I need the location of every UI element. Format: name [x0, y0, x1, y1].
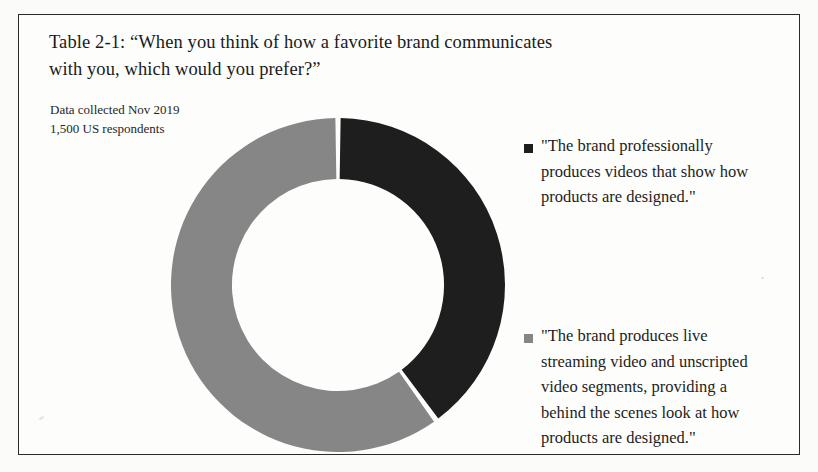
legend-0-line-1: "The brand professionally	[541, 133, 748, 159]
legend-1-line-4: behind the scenes look at how	[541, 400, 748, 426]
legend-item-professional-videos[interactable]: "The brand professionally produces video…	[522, 133, 748, 210]
figure-frame: Table 2-1: “When you think of how a favo…	[18, 14, 800, 455]
donut-slice-professional-videos[interactable]	[340, 118, 505, 419]
square-marker-dark-icon	[524, 144, 533, 153]
scan-speck	[39, 416, 44, 421]
scan-speck	[761, 277, 764, 279]
figure-title-line-2: with you, which would you prefer?”	[49, 56, 519, 83]
legend-1-line-5: products are designed."	[541, 425, 748, 451]
legend-1-line-2: streaming video and unscripted	[541, 349, 748, 375]
figure-title: Table 2-1: “When you think of how a favo…	[49, 29, 519, 83]
legend-1-line-3: video segments, providing a	[541, 374, 748, 400]
square-marker-gray-icon	[524, 334, 533, 343]
legend-1-line-1: "The brand produces live	[541, 323, 748, 349]
donut-slices	[171, 118, 505, 452]
donut-chart	[153, 100, 523, 470]
legend-item-live-streaming[interactable]: "The brand produces live streaming video…	[522, 323, 748, 451]
legend-item-label: "The brand professionally produces video…	[541, 133, 748, 210]
legend-0-line-3: products are designed."	[541, 184, 748, 210]
legend-item-label: "The brand produces live streaming video…	[541, 323, 748, 451]
donut-chart-svg	[153, 100, 523, 470]
legend-0-line-2: produces videos that show how	[541, 159, 748, 185]
figure-title-line-1: Table 2-1: “When you think of how a favo…	[49, 29, 519, 56]
